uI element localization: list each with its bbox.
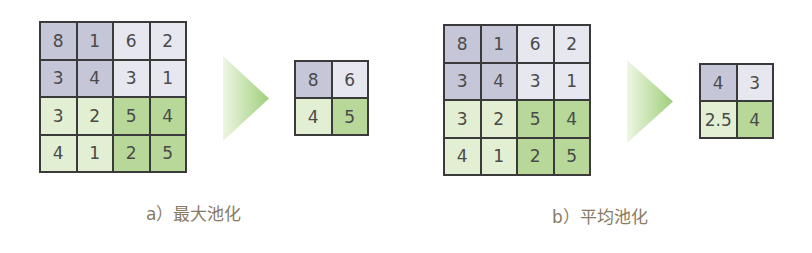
output-grid-max: 8 6 4 5 bbox=[294, 60, 369, 136]
output-cell: 8 bbox=[296, 62, 331, 97]
input-cell: 2 bbox=[518, 139, 553, 175]
caption-max-pooling: a）最大池化 bbox=[146, 200, 241, 225]
input-cell: 5 bbox=[151, 136, 186, 172]
input-cell: 6 bbox=[518, 26, 553, 62]
input-cell: 1 bbox=[482, 139, 517, 175]
input-cell: 1 bbox=[482, 26, 517, 62]
input-cell: 4 bbox=[555, 101, 590, 137]
output-cell: 4 bbox=[296, 99, 331, 134]
input-cell: 5 bbox=[518, 101, 553, 137]
output-cell: 5 bbox=[333, 99, 368, 134]
input-cell: 3 bbox=[445, 64, 480, 100]
input-cell: 5 bbox=[114, 98, 149, 134]
input-cell: 3 bbox=[518, 64, 553, 100]
output-cell: 2.5 bbox=[701, 102, 736, 137]
input-cell: 1 bbox=[78, 23, 113, 59]
output-cell: 4 bbox=[701, 65, 736, 100]
input-cell: 4 bbox=[445, 139, 480, 175]
input-cell: 2 bbox=[151, 23, 186, 59]
input-cell: 4 bbox=[78, 61, 113, 97]
input-cell: 8 bbox=[445, 26, 480, 62]
input-cell: 2 bbox=[555, 26, 590, 62]
input-cell: 3 bbox=[41, 61, 76, 97]
output-cell: 4 bbox=[738, 102, 773, 137]
input-grid-average: 8 1 6 2 3 4 3 1 3 2 5 4 4 1 2 5 bbox=[443, 24, 591, 176]
output-cell: 3 bbox=[738, 65, 773, 100]
input-cell: 5 bbox=[555, 139, 590, 175]
input-cell: 4 bbox=[151, 98, 186, 134]
input-cell: 2 bbox=[482, 101, 517, 137]
caption-average-pooling: b）平均池化 bbox=[552, 203, 648, 228]
input-cell: 1 bbox=[555, 64, 590, 100]
input-cell: 4 bbox=[482, 64, 517, 100]
input-cell: 3 bbox=[445, 101, 480, 137]
output-grid-average: 4 3 2.5 4 bbox=[699, 63, 774, 139]
input-cell: 2 bbox=[114, 136, 149, 172]
input-cell: 2 bbox=[78, 98, 113, 134]
input-cell: 8 bbox=[41, 23, 76, 59]
input-cell: 6 bbox=[114, 23, 149, 59]
input-grid-max: 8 1 6 2 3 4 3 1 3 2 5 4 4 1 2 5 bbox=[39, 21, 187, 173]
input-cell: 1 bbox=[151, 61, 186, 97]
input-cell: 4 bbox=[41, 136, 76, 172]
input-cell: 1 bbox=[78, 136, 113, 172]
input-cell: 3 bbox=[41, 98, 76, 134]
output-cell: 6 bbox=[333, 62, 368, 97]
input-cell: 3 bbox=[114, 61, 149, 97]
